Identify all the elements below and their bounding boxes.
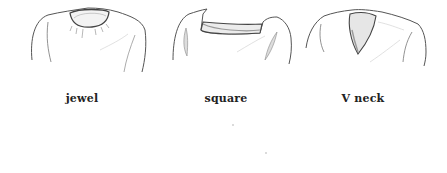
jewel-neckline-sketch: [20, 0, 155, 85]
v-neck-figure: [300, 0, 435, 85]
jewel-label: jewel: [22, 92, 142, 105]
v-neck-label: V neck: [303, 92, 423, 105]
square-label: square: [166, 92, 286, 105]
scan-speck: [232, 124, 234, 126]
square-neckline-figure: [165, 0, 300, 85]
v-neck-sketch: [300, 0, 435, 85]
scan-speck: [265, 152, 267, 154]
jewel-neckline-figure: [20, 0, 155, 85]
square-neckline-sketch: [165, 0, 300, 85]
